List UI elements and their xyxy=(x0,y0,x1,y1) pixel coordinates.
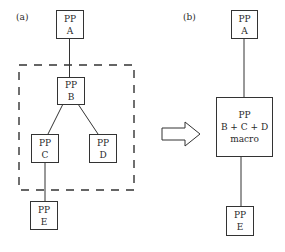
node-id: E xyxy=(237,221,244,233)
node-pp-c: PP C xyxy=(31,134,59,163)
node-members: B + C + D xyxy=(221,121,268,133)
node-id: A xyxy=(67,25,74,37)
node-title: PP xyxy=(238,109,250,121)
edge-b-d xyxy=(78,104,98,134)
node-pp-e: PP E xyxy=(30,201,58,230)
node-pp-a-b: PP A xyxy=(231,10,258,39)
panel-a-label: (a) xyxy=(16,12,28,22)
node-kind: macro xyxy=(230,133,259,145)
node-id: C xyxy=(42,149,49,161)
node-title: PP xyxy=(64,13,76,25)
node-title: PP xyxy=(39,137,51,149)
right-arrow-icon xyxy=(162,122,200,146)
node-title: PP xyxy=(38,204,50,216)
node-title: PP xyxy=(234,209,246,221)
node-title: PP xyxy=(97,137,109,149)
node-title: PP xyxy=(65,79,77,91)
node-title: PP xyxy=(238,13,250,25)
node-id: E xyxy=(41,216,48,228)
node-id: D xyxy=(99,149,106,161)
node-pp-e-b: PP E xyxy=(226,206,254,236)
node-pp-d: PP D xyxy=(89,134,117,163)
node-pp-a: PP A xyxy=(56,10,84,39)
edge-b-c xyxy=(48,104,63,134)
node-id: B xyxy=(68,91,75,103)
node-id: A xyxy=(241,25,248,37)
node-pp-macro: PP B + C + D macro xyxy=(216,97,273,157)
node-pp-b: PP B xyxy=(57,77,85,105)
panel-b-label: (b) xyxy=(183,12,196,22)
